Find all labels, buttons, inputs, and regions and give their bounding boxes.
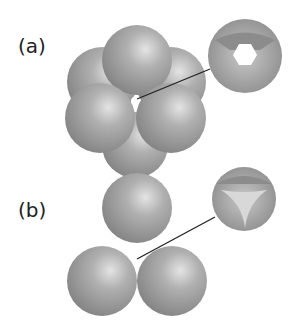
octahedral-cluster xyxy=(65,25,206,178)
inset-a-magnified-hole xyxy=(208,19,282,93)
sphere-packing-diagram xyxy=(0,0,293,335)
tetrahedral-cluster xyxy=(67,173,207,316)
inset-b-magnified-hole xyxy=(212,167,276,231)
